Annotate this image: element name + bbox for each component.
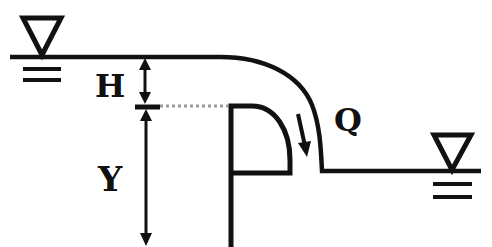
downstream-water-surface-symbol [433,135,472,197]
upstream-water-surface-symbol [23,18,61,80]
head-label: H [95,70,125,102]
weir-structure [231,106,290,247]
flow-direction-arrow [298,114,311,157]
weir-diagram [0,0,492,247]
water-surface-profile [10,57,481,171]
weir-height-dimension-arrow [140,109,152,246]
head-dimension-arrow [139,58,151,104]
weir-height-label: Y [98,162,122,196]
discharge-label: Q [334,104,362,136]
